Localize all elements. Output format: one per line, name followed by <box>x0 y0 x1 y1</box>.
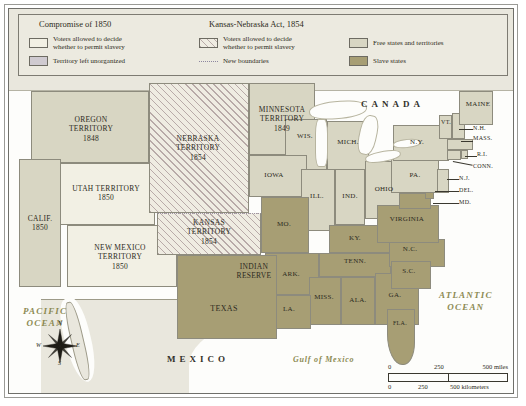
label-nebraska-year: 1854 <box>159 153 237 162</box>
region-rhode-island <box>461 150 468 159</box>
scale-km-0: 0 <box>388 383 391 390</box>
label-texas: TEXAS <box>191 305 257 314</box>
legend-swatch-new-boundaries <box>199 56 218 66</box>
legend-label-new-boundaries: New boundaries <box>223 57 269 65</box>
label-nebraska-line1: NEBRASKA <box>159 134 237 143</box>
scale-bar-graphic <box>388 373 508 382</box>
label-kentucky: KY. <box>339 235 371 243</box>
leader-line-massachusetts <box>461 141 473 142</box>
scale-km-500: 500 kilometers <box>450 383 489 390</box>
legend-item-new-boundaries: New boundaries <box>199 56 269 66</box>
label-indian-line1: INDIAN <box>226 262 282 271</box>
label-south-carolina: S.C. <box>395 268 423 276</box>
leader-line-new-jersey <box>447 179 459 180</box>
legend-label-line2: whether to permit slavery <box>53 43 125 51</box>
label-massachusetts: MASS. <box>473 135 505 141</box>
label-ohio: OHIO <box>367 186 401 194</box>
label-pacific-line1: PACIFIC <box>23 306 67 318</box>
label-canada: CANADA <box>361 99 424 109</box>
label-north-carolina: N.C. <box>395 246 425 254</box>
legend-item-voters-kansas-nebraska: Voters allowed to decide whether to perm… <box>199 35 295 52</box>
label-iowa: IOWA <box>255 172 293 180</box>
legend-label-line1: Voters allowed to decide <box>223 35 292 43</box>
legend-item-unorganized: Territory left unorganized <box>29 56 125 66</box>
label-atlantic-line2: OCEAN <box>439 302 493 314</box>
label-virginia: VIRGINIA <box>381 216 433 224</box>
label-rhode-island: R.I. <box>477 151 499 157</box>
label-michigan: MICH. <box>329 139 367 147</box>
region-new-jersey <box>437 169 449 193</box>
label-missouri: MO. <box>265 221 303 229</box>
label-minnesota-line2: TERRITORY <box>249 114 315 123</box>
region-virginia <box>377 205 439 243</box>
legend-title-compromise: Compromise of 1850 <box>39 19 111 29</box>
legend-swatch-voters-compromise <box>29 38 48 48</box>
label-florida: FLA. <box>387 320 413 326</box>
label-arkansas: ARK. <box>273 271 309 279</box>
label-california-year: 1850 <box>21 223 59 232</box>
label-utah-year: 1850 <box>65 193 147 202</box>
label-atlantic-line1: ATLANTIC <box>439 290 493 302</box>
label-louisiana: LA. <box>275 306 303 314</box>
compass-label-e: E <box>76 342 80 348</box>
label-oregon-year: 1848 <box>55 134 127 143</box>
label-pennsylvania: PA. <box>401 172 429 180</box>
region-connecticut <box>447 150 461 160</box>
legend-label-free-states: Free states and territories <box>373 39 444 47</box>
legend-swatch-voters-kansas-nebraska <box>199 38 218 48</box>
leader-line-new-hampshire <box>459 129 473 130</box>
label-oregon-territory: OREGON TERRITORY 1848 <box>55 115 127 143</box>
legend-title-kansas-nebraska: Kansas-Nebraska Act, 1854 <box>209 19 304 29</box>
label-kansas-year: 1854 <box>171 237 247 246</box>
scale-miles-0: 0 <box>388 363 391 370</box>
legend-swatch-unorganized <box>29 56 48 66</box>
scale-km-250: 250 <box>418 383 428 390</box>
label-kansas-line2: TERRITORY <box>171 227 247 236</box>
label-nm-line2: TERRITORY <box>75 252 165 261</box>
legend-swatch-slave-states <box>349 56 368 66</box>
scale-miles-500: 500 miles <box>483 363 508 370</box>
scale-labels-kilometers: 0 250 500 kilometers <box>388 383 508 392</box>
compass-label-w: W <box>36 342 41 348</box>
label-illinois: ILL. <box>303 193 331 201</box>
legend-label-voters-compromise: Voters allowed to decide whether to perm… <box>53 35 125 52</box>
leader-line-delaware <box>435 191 459 192</box>
legend-swatch-free-states <box>349 38 368 48</box>
legend-label-line1: Voters allowed to decide <box>53 35 122 43</box>
map-scale-bar: 0 250 500 miles 0 250 500 kilometers <box>388 363 508 392</box>
label-california: CALIF. 1850 <box>21 214 59 233</box>
legend-item-slave-states: Slave states <box>349 56 406 66</box>
map-legend: Compromise of 1850 Kansas-Nebraska Act, … <box>18 14 508 76</box>
map-figure: CANADA MEXICO PACIFIC OCEAN ATLANTIC OCE… <box>0 0 526 406</box>
label-georgia: GA. <box>379 292 411 300</box>
lake-superior <box>308 99 367 122</box>
label-nebraska-territory: NEBRASKA TERRITORY 1854 <box>159 134 237 162</box>
label-nebraska-line2: TERRITORY <box>159 143 237 152</box>
label-utah-line1: UTAH TERRITORY <box>65 184 147 193</box>
compass-label-s: S <box>58 360 61 366</box>
legend-label-unorganized: Territory left unorganized <box>53 57 125 65</box>
label-alabama: ALA. <box>343 297 373 305</box>
label-new-hampshire: N.H. <box>473 125 499 131</box>
scale-miles-250: 250 <box>434 363 444 370</box>
label-vermont: VT. <box>437 119 455 125</box>
label-utah-territory: UTAH TERRITORY 1850 <box>65 184 147 203</box>
lake-huron <box>355 114 381 157</box>
leader-line-connecticut <box>453 161 473 166</box>
legend-item-voters-compromise: Voters allowed to decide whether to perm… <box>29 35 125 52</box>
label-mexico: MEXICO <box>167 354 229 364</box>
label-california-name: CALIF. <box>21 214 59 223</box>
label-new-york: N.Y. <box>401 139 433 147</box>
label-maryland: MD. <box>459 199 481 205</box>
compass-rose: N S E W <box>37 323 83 369</box>
leader-line-rhode-island <box>465 156 477 157</box>
label-connecticut: CONN. <box>473 163 503 169</box>
scale-labels-miles: 0 250 500 miles <box>388 363 508 372</box>
label-tennessee: TENN. <box>335 258 375 266</box>
label-oregon-line2: TERRITORY <box>55 124 127 133</box>
region-florida <box>387 309 415 365</box>
compass-label-n: N <box>58 320 62 326</box>
legend-label-slave-states: Slave states <box>373 57 406 65</box>
label-gulf-of-mexico: Gulf of Mexico <box>293 355 354 365</box>
legend-label-line2: whether to permit slavery <box>223 43 295 51</box>
